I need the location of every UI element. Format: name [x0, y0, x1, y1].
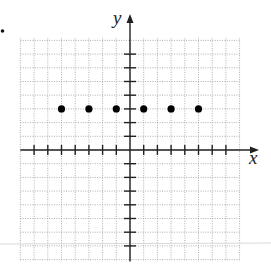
coordinate-plane: x y	[0, 0, 271, 273]
data-point	[195, 105, 202, 112]
data-point	[58, 105, 65, 112]
x-axis-label: x	[248, 147, 258, 168]
axes	[20, 14, 259, 262]
data-point	[168, 105, 175, 112]
data-point	[140, 105, 147, 112]
data-point	[85, 105, 92, 112]
scan-artifact-line	[0, 243, 271, 244]
y-axis-arrow-icon	[127, 14, 134, 23]
stray-bullet-mark	[1, 29, 5, 33]
y-axis-label: y	[111, 7, 122, 28]
data-point	[113, 105, 120, 112]
